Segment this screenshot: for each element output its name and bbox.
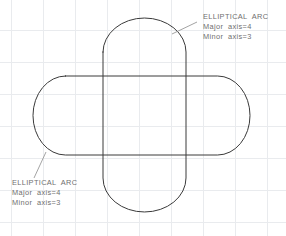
annotation-top-right: ELLIPTICAL ARCMajor axis=4Minor axis=3 — [203, 12, 269, 41]
annotation-bottom-left-minor-axis-label: Minor axis=3 — [12, 198, 61, 207]
annotation-top-right-minor-axis-label: Minor axis=3 — [203, 32, 252, 41]
drawing-canvas: ELLIPTICAL ARCMajor axis=4Minor axis=3EL… — [0, 0, 286, 236]
vertical-slot — [103, 18, 186, 212]
annotation-labels: ELLIPTICAL ARCMajor axis=4Minor axis=3EL… — [12, 12, 269, 207]
annotation-top-right-leader — [172, 22, 197, 34]
annotation-bottom-left-leader — [34, 152, 46, 178]
technical-drawing: ELLIPTICAL ARCMajor axis=4Minor axis=3EL… — [0, 0, 286, 236]
annotation-top-right-title: ELLIPTICAL ARC — [203, 12, 269, 21]
horizontal-slot — [33, 76, 250, 155]
annotation-top-right-major-axis-label: Major axis=4 — [203, 22, 252, 31]
annotation-bottom-left: ELLIPTICAL ARCMajor axis=4Minor axis=3 — [12, 178, 78, 207]
annotation-bottom-left-title: ELLIPTICAL ARC — [12, 178, 78, 187]
annotation-bottom-left-major-axis-label: Major axis=4 — [12, 188, 61, 197]
